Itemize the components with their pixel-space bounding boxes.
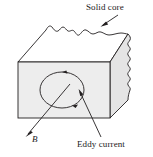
eddy-current-label: Eddy current — [77, 140, 125, 149]
magnetic-field-label: B — [32, 135, 38, 144]
figure-drawing — [0, 0, 153, 157]
top-face — [18, 26, 128, 62]
solid-core-eddy-current-figure: Solid core Eddy current B — [0, 0, 153, 157]
front-face — [18, 62, 110, 118]
solid-core-label: Solid core — [86, 3, 124, 12]
